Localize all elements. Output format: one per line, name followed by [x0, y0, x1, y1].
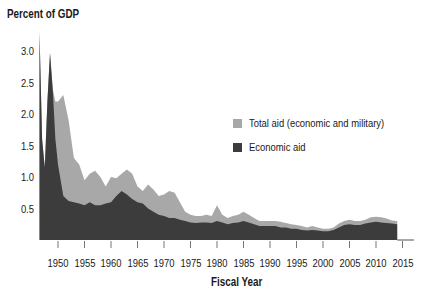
legend-label-economic-aid: Economic aid — [249, 141, 306, 153]
x-tick-marks — [58, 241, 403, 248]
economic-aid-swatch — [233, 143, 242, 152]
legend: Total aid (economic and military) Econom… — [233, 115, 414, 163]
legend-item-economic-aid: Economic aid — [233, 139, 414, 155]
legend-label-total-aid: Total aid (economic and military) — [249, 117, 384, 129]
total-aid-swatch — [233, 119, 242, 128]
x-axis-title: Fiscal Year — [211, 275, 262, 289]
legend-item-total-aid: Total aid (economic and military) — [233, 115, 414, 131]
